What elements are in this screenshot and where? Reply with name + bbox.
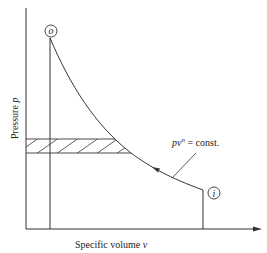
x-axis (26, 227, 262, 232)
x-axis-label: Specific volume v (75, 239, 148, 250)
point-initial-marker: i (208, 187, 220, 199)
polytropic-curve (50, 38, 203, 190)
direction-arrow-icon (152, 167, 160, 173)
point-initial-label: i (213, 188, 216, 199)
curve-label-leader (173, 153, 196, 177)
hatched-strip (26, 139, 131, 153)
curve-label: pvn = const. (171, 136, 219, 148)
point-final-marker: o (45, 25, 57, 37)
point-final-label: o (49, 25, 54, 36)
pv-diagram: o i pvn = const. Pressure p Specific vol… (0, 0, 267, 253)
y-axis-label: Pressure p (9, 98, 20, 139)
